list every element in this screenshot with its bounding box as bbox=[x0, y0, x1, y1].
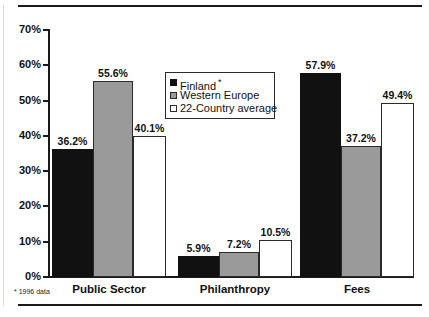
y-axis-tick-label: 0% bbox=[1, 271, 41, 282]
legend-swatch-finland bbox=[170, 79, 177, 86]
bar bbox=[381, 103, 414, 277]
bar-value-label: 49.4% bbox=[375, 90, 420, 101]
y-axis-tick-label: 40% bbox=[1, 130, 41, 141]
legend: Finland* Western Europe 22-Country avera… bbox=[165, 72, 275, 119]
y-axis-tick-label: 60% bbox=[1, 59, 41, 70]
legend-item: 22-Country average bbox=[170, 102, 270, 115]
bar-value-label: 57.9% bbox=[294, 60, 347, 71]
top-rule bbox=[18, 5, 422, 7]
bar bbox=[259, 240, 292, 277]
x-axis-category-label: Public Sector bbox=[39, 283, 179, 295]
x-axis-category-label: Philanthropy bbox=[165, 283, 305, 295]
legend-label-22-country-average: 22-Country average bbox=[180, 102, 277, 115]
legend-item: Finland* bbox=[170, 76, 270, 89]
plot-area: 36.2%55.6%40.1%5.9%7.2%10.5%57.9%37.2%49… bbox=[48, 30, 414, 277]
legend-swatch-western-europe bbox=[170, 92, 177, 99]
bar bbox=[52, 149, 93, 277]
bar bbox=[178, 256, 219, 277]
x-axis-category-label: Fees bbox=[287, 283, 427, 295]
bar-value-label: 36.2% bbox=[46, 136, 99, 147]
bar bbox=[300, 73, 341, 277]
left-rule bbox=[3, 5, 4, 306]
legend-swatch-22-country-average bbox=[170, 105, 177, 112]
legend-label-western-europe: Western Europe bbox=[180, 89, 259, 102]
legend-item: Western Europe bbox=[170, 89, 270, 102]
y-axis-tick-label: 20% bbox=[1, 200, 41, 211]
bottom-rule bbox=[18, 304, 422, 306]
footnote-marker-icon: * bbox=[218, 77, 222, 87]
y-axis-tick-label: 70% bbox=[1, 24, 41, 35]
bar-value-label: 10.5% bbox=[253, 227, 298, 238]
chart-figure: 0%10%20%30%40%50%60%70% 36.2%55.6%40.1%5… bbox=[0, 0, 429, 317]
bar bbox=[219, 252, 259, 277]
bar bbox=[341, 146, 381, 277]
bar bbox=[93, 81, 133, 277]
bar-value-label: 37.2% bbox=[335, 133, 387, 144]
bar-value-label: 55.6% bbox=[87, 68, 139, 79]
bar-value-label: 40.1% bbox=[127, 123, 172, 134]
y-axis-tick-label: 30% bbox=[1, 165, 41, 176]
bar-value-label: 7.2% bbox=[213, 239, 265, 250]
bar bbox=[133, 136, 166, 277]
footnote: * 1996 data bbox=[14, 288, 50, 295]
y-axis-tick-label: 10% bbox=[1, 236, 41, 247]
y-axis-tick-label: 50% bbox=[1, 95, 41, 106]
